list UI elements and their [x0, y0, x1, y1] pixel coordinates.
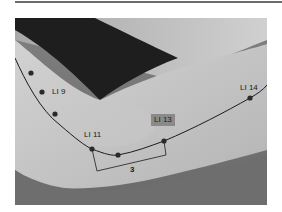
measurement-label: 3	[130, 166, 134, 174]
acupoint-dot	[52, 111, 57, 116]
acupoint-dot-li14	[247, 95, 252, 100]
top-rule-divider	[15, 1, 282, 3]
photo-illustration	[15, 18, 267, 205]
acupoint-dot-li13	[161, 138, 166, 143]
acupoint-dot-li11	[89, 146, 94, 151]
acupoint-dot	[28, 70, 33, 75]
label-li9: LI 9	[52, 88, 65, 96]
arm-photograph	[15, 18, 267, 205]
acupoint-dot	[115, 152, 120, 157]
label-li14: LI 14	[240, 84, 258, 92]
label-li11: LI 11	[84, 131, 101, 139]
label-li13: LI 13	[151, 114, 175, 126]
acupoint-dot-li9	[39, 89, 44, 94]
